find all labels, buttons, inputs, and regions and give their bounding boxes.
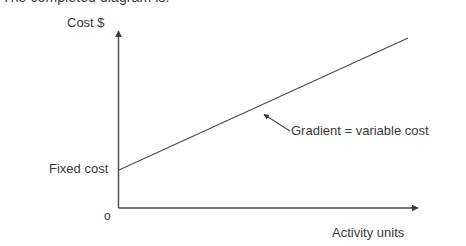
fixed-cost-label: Fixed cost (49, 161, 108, 176)
gradient-leader-arrow (264, 115, 290, 132)
gradient-annotation-label: Gradient = variable cost (291, 123, 429, 138)
diagram-canvas: The completed diagram is: Cost $ Fixed c… (0, 0, 466, 246)
y-axis-label: Cost $ (67, 15, 105, 30)
x-axis-label: Activity units (332, 225, 404, 240)
total-cost-line (119, 38, 408, 170)
origin-label: o (104, 209, 111, 224)
